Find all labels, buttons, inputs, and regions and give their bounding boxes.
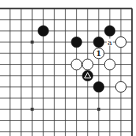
white-stone [104,59,115,70]
white-stone [116,37,127,48]
white-stone-body [104,59,115,70]
go-board: 1 a [0,0,136,136]
white-stone [71,59,82,70]
black-stone [82,70,93,81]
white-stone-body [116,37,127,48]
black-stone [104,26,115,37]
move-number: 1 [96,49,101,58]
black-stone [93,37,104,48]
white-stone [116,82,127,93]
black-stone-body [71,37,82,48]
black-stone-body [104,26,115,37]
point-labels: a [107,38,113,47]
white-stone: 1 [93,48,104,59]
black-stone-body [93,82,104,93]
white-stone-body [82,59,93,70]
black-stone-body [93,37,104,48]
white-stone [82,59,93,70]
black-stone-body [38,26,49,37]
black-stone [71,37,82,48]
stones: 1 [38,26,126,93]
white-stone-body [71,59,82,70]
point-label-a: a [108,38,113,47]
white-stone-body [116,82,127,93]
black-stone [38,26,49,37]
star-point [97,108,100,111]
star-point [31,108,34,111]
black-stone [93,82,104,93]
star-point [31,41,34,44]
